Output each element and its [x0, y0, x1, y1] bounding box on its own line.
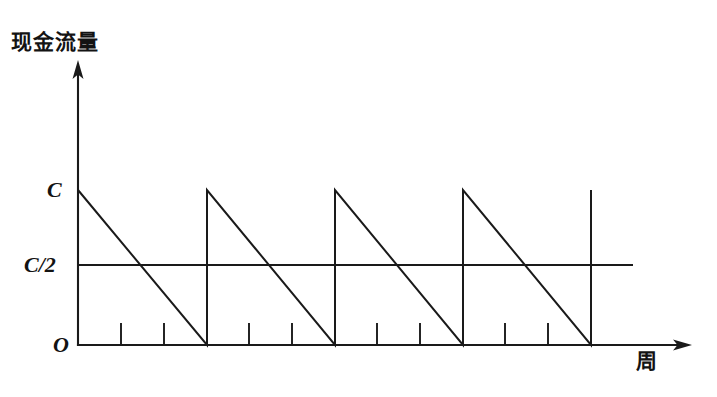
sawtooth-chart-canvas [0, 0, 717, 397]
cash-balance-sawtooth [78, 190, 591, 345]
x-axis [78, 340, 692, 351]
y-axis-label-c-half: C/2 [24, 254, 56, 276]
y-axis-label-c: C [47, 179, 62, 201]
cash-flow-figure: 现金流量 周 C C/2 O [0, 0, 717, 397]
y-axis-title: 现金流量 [11, 32, 99, 53]
y-axis [73, 60, 84, 345]
y-axis-label-origin: O [53, 334, 69, 356]
x-axis-title: 周 [636, 351, 658, 372]
